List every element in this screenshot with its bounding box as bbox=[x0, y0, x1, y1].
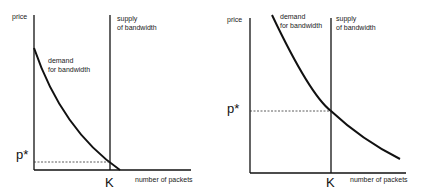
right-x-axis-label: number of packets bbox=[350, 176, 408, 184]
left-supply-label-line2: of bandwidth bbox=[117, 24, 157, 32]
left-capacity-marker: K bbox=[105, 176, 114, 190]
right-supply-label-line2: of bandwidth bbox=[336, 24, 376, 32]
right-price-marker: p* bbox=[227, 102, 239, 116]
left-price-marker: p* bbox=[16, 148, 28, 162]
right-demand-label-line2: for bandwidth bbox=[280, 22, 322, 30]
right-diagram bbox=[250, 15, 406, 173]
left-diagram bbox=[34, 15, 191, 170]
right-demand-curve bbox=[272, 15, 400, 159]
right-supply-label-line1: supply bbox=[336, 15, 356, 23]
left-x-axis-label: number of packets bbox=[135, 176, 193, 184]
left-y-axis-label: price bbox=[12, 13, 27, 21]
left-demand-label-line1: demand bbox=[48, 57, 73, 65]
left-demand-label-line2: for bandwidth bbox=[48, 66, 90, 74]
right-y-axis-label: price bbox=[227, 16, 242, 24]
left-supply-label-line1: supply bbox=[117, 15, 137, 23]
right-capacity-marker: K bbox=[326, 176, 335, 190]
right-demand-label-line1: demand bbox=[280, 13, 305, 21]
